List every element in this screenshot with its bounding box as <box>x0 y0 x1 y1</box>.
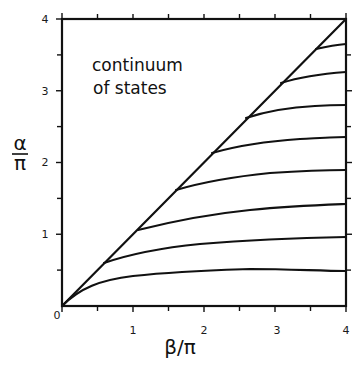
x-tick-label-2: 2 <box>201 324 208 337</box>
chart: 0 1 2 3 4 1 2 3 4 α π β/π continuum of s… <box>0 0 361 367</box>
y-tick-label-4: 4 <box>42 13 49 26</box>
y-tick-label-3: 3 <box>42 85 49 98</box>
branch-2 <box>104 237 346 263</box>
y-tick-label-1: 1 <box>42 228 49 241</box>
branch-6 <box>246 105 346 118</box>
branch-3 <box>138 204 346 230</box>
branch-5 <box>212 137 346 153</box>
branch-1 <box>62 269 346 306</box>
y-tick-label-2: 2 <box>42 156 49 169</box>
y-axis-title: α π <box>12 131 28 175</box>
x-tick-label-1: 1 <box>130 324 137 337</box>
branch-4 <box>176 170 346 190</box>
x-tick-label-0: 0 <box>54 309 61 322</box>
annotation-continuum: continuum <box>92 55 183 75</box>
x-tick-label-3: 3 <box>274 324 281 337</box>
annotation-of-states: of states <box>93 78 167 98</box>
x-axis-title: β/π <box>164 335 196 359</box>
x-tick-label-4: 4 <box>343 324 350 337</box>
y-axis-title-denominator: π <box>14 151 26 175</box>
